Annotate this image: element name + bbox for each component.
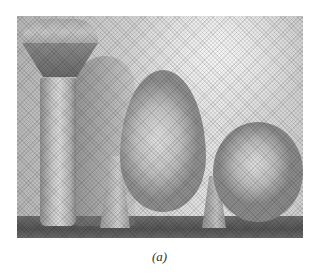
figure-caption: (a) <box>0 249 319 265</box>
peg-head-top <box>22 19 98 45</box>
figure-photo <box>17 16 303 238</box>
sphere-object <box>213 122 303 222</box>
peg-head <box>22 19 98 75</box>
peg-head-bottom <box>22 43 98 77</box>
peg-stem <box>40 78 76 226</box>
